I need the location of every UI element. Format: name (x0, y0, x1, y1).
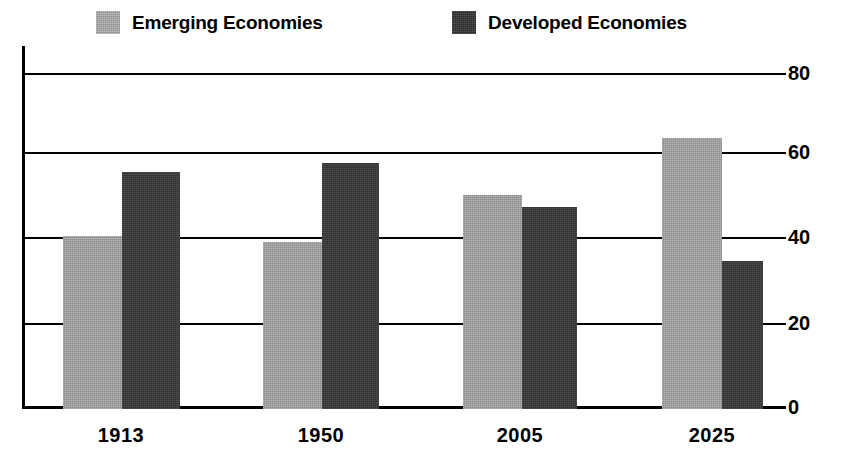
bar-developed-2025 (722, 261, 763, 409)
bar-emerging-2005 (463, 195, 522, 409)
y-axis-label-0: 0 (788, 397, 799, 417)
legend-label-developed: Developed Economies (488, 13, 687, 32)
tick-mark-0 (762, 406, 786, 409)
legend-item-emerging-economies: Emerging Economies (96, 11, 323, 34)
bar-emerging-2025 (662, 138, 722, 409)
bar-developed-1913 (122, 172, 180, 409)
bar-developed-2005 (522, 207, 577, 409)
bar-developed-1950 (322, 163, 379, 409)
legend-swatch-developed-icon (452, 11, 476, 34)
tick-mark-40 (762, 237, 786, 239)
legend-label-emerging: Emerging Economies (132, 13, 323, 32)
tick-mark-20 (762, 323, 786, 325)
y-axis-label-40: 40 (788, 227, 810, 247)
y-axis-label-60: 60 (788, 142, 810, 162)
y-axis-label-80: 80 (788, 63, 810, 83)
tick-mark-80 (762, 73, 786, 75)
y-axis-label-20: 20 (788, 313, 810, 333)
legend-swatch-emerging-icon (96, 11, 120, 34)
x-axis-label-1950: 1950 (298, 425, 345, 445)
plot-area (22, 46, 762, 409)
chart-legend: Emerging Economies Developed Economies (0, 0, 863, 46)
tick-mark-60 (762, 152, 786, 154)
x-axis-label-2025: 2025 (689, 425, 736, 445)
bar-emerging-1950 (263, 242, 322, 409)
legend-item-developed-economies: Developed Economies (452, 11, 687, 34)
bar-chart: Emerging Economies Developed Economies (0, 0, 863, 466)
x-axis-label-2005: 2005 (497, 425, 544, 445)
bar-emerging-1913 (63, 236, 122, 409)
x-axis-label-1913: 1913 (98, 425, 145, 445)
bar-series-group (22, 46, 762, 409)
